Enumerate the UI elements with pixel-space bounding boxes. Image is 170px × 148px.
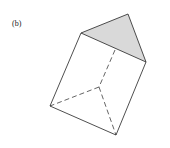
shaded-top-face — [81, 14, 146, 62]
edge-left — [50, 33, 81, 106]
prism-diagram — [0, 0, 170, 148]
hidden-edges — [50, 50, 116, 135]
edge-right — [116, 62, 146, 135]
edge-bottom-left — [50, 106, 116, 135]
